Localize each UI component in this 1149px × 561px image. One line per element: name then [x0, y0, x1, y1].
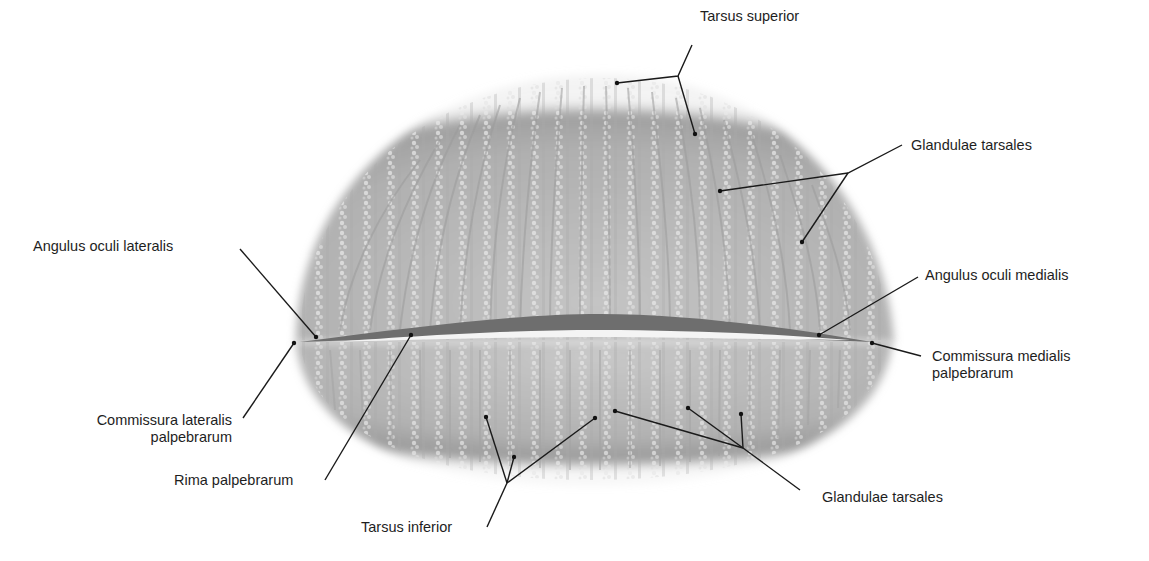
tarsus-inferior-shape	[290, 340, 900, 490]
label-rima-palpebrarum: Rima palpebrarum	[174, 472, 293, 489]
leader-commissura-lateralis	[243, 343, 294, 418]
label-commissura-lateralis-line2: palpebrarum	[70, 429, 232, 446]
label-angulus-oculi-medialis: Angulus oculi medialis	[925, 267, 1068, 284]
tarsus-superior-shape	[290, 70, 900, 350]
label-glandulae-tarsales-upper: Glandulae tarsales	[911, 137, 1032, 154]
label-tarsus-inferior: Tarsus inferior	[361, 519, 452, 536]
label-commissura-medialis: Commissura medialis palpebrarum	[932, 348, 1071, 382]
label-commissura-lateralis-line1: Commissura lateralis	[70, 412, 232, 429]
label-commissura-medialis-line1: Commissura medialis	[932, 348, 1071, 365]
label-commissura-lateralis: Commissura lateralis palpebrarum	[70, 412, 232, 446]
label-commissura-medialis-line2: palpebrarum	[932, 365, 1071, 382]
leader-tarsus-inferior	[487, 483, 507, 527]
label-angulus-oculi-lateralis: Angulus oculi lateralis	[33, 238, 173, 255]
label-glandulae-tarsales-lower: Glandulae tarsales	[822, 489, 943, 506]
label-tarsus-superior: Tarsus superior	[700, 8, 799, 25]
